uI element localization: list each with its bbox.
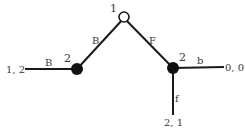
payoff-bottom: 2, 1 xyxy=(164,117,183,128)
right-node xyxy=(167,62,179,74)
edge-right-terminal-b xyxy=(173,67,224,68)
right-player-label: 2 xyxy=(179,51,186,64)
edge-root-left xyxy=(77,18,124,69)
payoff-right: 0, 0 xyxy=(225,62,244,73)
action-label-right-b: b xyxy=(197,55,203,66)
action-label-left-terminal: B xyxy=(45,57,52,68)
left-node xyxy=(71,63,83,75)
action-label-right-f: f xyxy=(175,93,180,104)
action-label-root-right: F xyxy=(149,35,156,46)
left-player-label: 2 xyxy=(64,52,71,65)
payoff-left: 1, 2 xyxy=(6,64,25,75)
root-node xyxy=(119,12,129,22)
game-tree: 1 2 2 B F B b f 1, 2 0, 0 2, 1 xyxy=(0,0,245,131)
root-player-label: 1 xyxy=(110,2,117,15)
action-label-root-left: B xyxy=(92,35,99,46)
